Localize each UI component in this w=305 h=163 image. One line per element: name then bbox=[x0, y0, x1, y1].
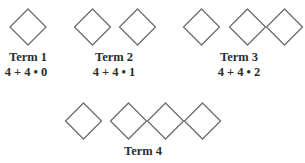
diamond-shape bbox=[111, 103, 147, 139]
diamond-shape bbox=[267, 9, 303, 45]
diamond-shape bbox=[230, 9, 266, 45]
term-3-expression: 4 + 4 • 2 bbox=[218, 66, 261, 79]
term-4-squares bbox=[66, 103, 221, 139]
pattern-figure bbox=[0, 0, 305, 163]
term-1-squares bbox=[10, 9, 46, 45]
diamond-shape bbox=[148, 103, 184, 139]
diamond-shape bbox=[75, 9, 111, 45]
term-1-expression: 4 + 4 • 0 bbox=[5, 66, 48, 79]
term-4-label: Term 4 bbox=[124, 145, 162, 158]
term-1-label: Term 1 bbox=[9, 51, 47, 64]
diamond-shape bbox=[120, 9, 156, 45]
diamond-shape bbox=[184, 9, 220, 45]
term-2-expression: 4 + 4 • 1 bbox=[93, 66, 136, 79]
term-3-squares bbox=[184, 9, 303, 45]
diamond-shape bbox=[66, 103, 102, 139]
term-3-label: Term 3 bbox=[220, 51, 258, 64]
term-2-label: Term 2 bbox=[95, 51, 133, 64]
term-2-squares bbox=[75, 9, 156, 45]
diamond-shape bbox=[185, 103, 221, 139]
diamond-shape bbox=[10, 9, 46, 45]
